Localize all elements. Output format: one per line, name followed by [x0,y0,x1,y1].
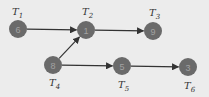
edge-t2-t3 [95,30,144,31]
edge-t4-t2 [59,37,79,59]
node-value: 6 [15,25,20,35]
node-t2: 1T2 [77,6,95,39]
node-value: 9 [150,27,155,37]
node-t3: 9T3 [144,7,162,40]
node-label: T4 [49,77,60,91]
node-label: T3 [149,7,161,21]
node-label: T5 [118,79,130,93]
edge-t5-t6 [131,66,179,67]
dependency-graph: 6T11T29T38T45T53T6 [0,0,209,97]
node-t5: 5T5 [113,57,131,93]
node-label: T2 [82,6,94,20]
node-label: T6 [184,80,196,94]
node-t4: 8T4 [44,56,62,91]
node-value: 3 [185,63,190,73]
node-label: T1 [12,6,23,20]
node-value: 8 [50,61,55,71]
edge-t4-t5 [62,65,113,66]
node-value: 5 [119,62,124,72]
node-t6: 3T6 [179,58,197,94]
nodes: 6T11T29T38T45T53T6 [9,6,197,94]
node-value: 1 [83,26,88,36]
edge-t1-t2 [27,29,77,30]
node-t1: 6T1 [9,6,27,38]
